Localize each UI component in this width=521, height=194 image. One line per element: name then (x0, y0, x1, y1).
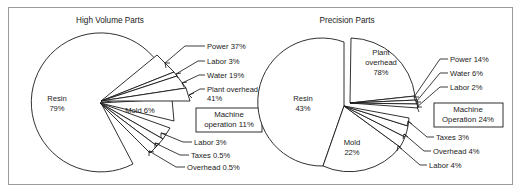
pie-chart-figure: High Volume Parts Resin 79% Mold 6% (0, 0, 521, 194)
leader-labor-machine-left (176, 61, 205, 74)
slice-label-mold-left: Mold 6% (125, 106, 155, 115)
chart-high-volume-parts: High Volume Parts Resin 79% Mold 6% (31, 16, 262, 172)
callout-box-machine-left-line2: operation 11% (204, 120, 254, 129)
slice-label-plant-overhead-right-line2: overhead (365, 58, 397, 67)
callout-box-machine-right-line2: Operation 24% (442, 115, 494, 124)
leader-labor-right (398, 146, 427, 165)
callout-box-machine-left-line1: Machine (214, 110, 243, 119)
slice-label-resin-right-line1: Resin (293, 94, 312, 103)
callout-taxes-right: Taxes 3% (436, 133, 469, 142)
callout-box-machine-right-line1: Machine (453, 105, 482, 114)
leader-power-right (414, 59, 448, 97)
callout-water-right: Water 6% (450, 69, 483, 78)
callout-plant-overhead-left-line2: 41% (207, 94, 222, 103)
leader-overhead-left (149, 151, 185, 167)
callout-plant-overhead-left-line1: Plant overhead (207, 85, 258, 94)
arrowhead-plant-overhead-left (189, 93, 194, 98)
callout-overhead-left: Overhead 0.5% (187, 163, 240, 172)
chart-title-right: Precision Parts (319, 16, 374, 25)
slice-label-resin-left-line1: Resin (47, 94, 66, 103)
callout-power-left: Power 37% (207, 42, 246, 51)
callout-labor-machine-right: Labor 2% (450, 83, 483, 92)
leader-power-left (165, 46, 205, 63)
leader-water-left (182, 75, 205, 83)
slice-label-mold-right-line2: 22% (344, 148, 359, 157)
callout-overhead-right: Overhead 4% (433, 147, 480, 156)
chart-title-left: High Volume Parts (76, 16, 144, 25)
leader-taxes-left (155, 143, 189, 155)
callout-labor-machine-left: Labor 3% (207, 57, 240, 66)
callout-labor-right: Labor 4% (429, 161, 462, 170)
chart-precision-parts: Precision Parts Resin 43% Mold 22% Plant… (258, 16, 503, 172)
arrowhead-labor-machine-right (417, 107, 422, 112)
callout-water-left: Water 19% (207, 71, 245, 80)
slice-label-resin-left-line2: 79% (49, 104, 64, 113)
callout-labor-left: Labor 3% (194, 138, 227, 147)
slice-label-resin-right-line2: 43% (295, 104, 310, 113)
slice-label-plant-overhead-right-line3: 78% (373, 68, 388, 77)
charts-canvas: High Volume Parts Resin 79% Mold 6% (0, 0, 521, 194)
callout-taxes-left: Taxes 0.5% (191, 151, 231, 160)
slice-label-plant-overhead-right-line1: Plant (372, 48, 390, 57)
callout-power-right: Power 14% (450, 55, 489, 64)
slice-label-mold-right-line1: Mold (344, 138, 360, 147)
pie-slice-labor-machine-right (350, 103, 418, 108)
